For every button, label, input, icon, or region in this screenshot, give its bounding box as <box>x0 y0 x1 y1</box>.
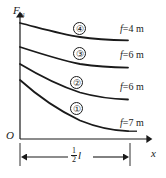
y-axis-label-subscript: N <box>20 11 25 19</box>
curve-number-3: ③ <box>73 47 86 60</box>
curve-2-label: f=6 m <box>120 82 144 92</box>
x-axis-label: x <box>151 148 156 159</box>
curve-3-label: f=6 m <box>120 50 144 60</box>
y-axis-label-main: F <box>13 4 20 16</box>
dimension-label: 1 2 l <box>71 147 81 165</box>
curve-1-label-value: =7 m <box>123 117 144 128</box>
curve-number-4: ④ <box>73 22 86 35</box>
dimension-symbol: l <box>78 150 81 161</box>
curve-number-1: ① <box>70 102 83 115</box>
origin-label: O <box>6 130 14 141</box>
y-axis-label: FN <box>13 5 25 19</box>
curve-2-label-value: =6 m <box>123 81 144 92</box>
curve-4-label-value: =4 m <box>123 23 144 34</box>
curve-1-label: f=7 m <box>120 118 144 128</box>
normal-force-diagram: FN x O f=4 m f=6 m f=6 m f=7 m ④ ③ ② ① 1… <box>0 0 166 178</box>
curve-number-2: ② <box>70 76 83 89</box>
dimension-fraction: 1 2 <box>71 147 77 165</box>
curve-4-label: f=4 m <box>120 24 144 34</box>
dimension-numerator: 1 <box>71 147 77 155</box>
curve-3-label-value: =6 m <box>123 49 144 60</box>
dimension-denominator: 2 <box>71 155 77 164</box>
